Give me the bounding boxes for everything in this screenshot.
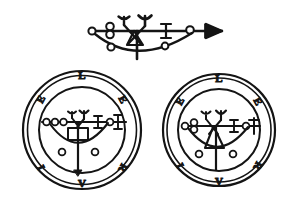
sigil-plate: L E R V I E	[0, 0, 299, 212]
right-seal-letter-top: L	[215, 72, 222, 84]
double-circle-lower	[106, 31, 114, 39]
right-seal-letter-bottom: V	[215, 175, 223, 187]
left-inner-circle-1	[43, 119, 50, 126]
left-inner-arc-circle-left	[59, 149, 66, 156]
left-seal-letter-bottom: V	[78, 177, 86, 189]
left-seal: L E R V I E	[23, 69, 141, 189]
left-inner-circle-2	[52, 119, 59, 126]
arc-right-circle	[162, 43, 169, 50]
arc-left-circle	[107, 43, 114, 50]
right-seal: L E R V I E	[163, 72, 275, 187]
left-inner-arc-circle-right	[92, 149, 99, 156]
left-seal-letter-top: L	[78, 69, 85, 81]
double-circle-upper	[106, 23, 114, 31]
sigil-plate-canvas: L E R V I E	[0, 0, 299, 212]
right-inner-arc-circle-right	[230, 151, 237, 158]
right-inner-circle-2	[191, 119, 198, 126]
left-inner-circle-3	[60, 119, 67, 126]
right-inner-arc-circle-left	[196, 151, 203, 158]
